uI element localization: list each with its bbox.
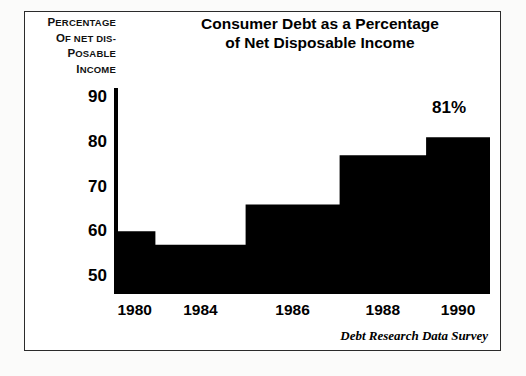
plot-area <box>114 88 490 294</box>
y-axis-caption-line-3: posable <box>40 46 116 62</box>
chart-title-line-1: Consumer Debt as a Percentage <box>150 14 490 33</box>
y-axis-caption-line-1: Percentage <box>40 15 116 31</box>
x-tick-label: 1984 <box>169 301 231 319</box>
source-attribution: Debt Research Data Survey <box>340 328 488 344</box>
x-tick-label: 1986 <box>262 301 324 319</box>
x-tick-label: 1988 <box>352 301 414 319</box>
y-axis-caption-line-4: income <box>40 62 116 78</box>
y-tick-label: 50 <box>61 266 107 286</box>
y-tick-label: 70 <box>61 177 107 197</box>
x-tick-label: 1980 <box>104 301 166 319</box>
y-axis-caption-line-2: of net dis- <box>40 31 116 47</box>
chart-title: Consumer Debt as a Percentage of Net Dis… <box>150 14 490 52</box>
y-tick-label: 80 <box>61 132 107 152</box>
y-tick-label: 90 <box>61 87 107 107</box>
data-label-81-percent: 81% <box>432 98 466 118</box>
chart-figure: Consumer Debt as a Percentage of Net Dis… <box>0 0 526 376</box>
y-tick-label: 60 <box>61 221 107 241</box>
x-tick-label: 1990 <box>427 301 489 319</box>
chart-title-line-2: of Net Disposable Income <box>150 33 490 52</box>
step-area-series <box>114 88 490 294</box>
debt-step-area <box>114 137 490 294</box>
y-axis-caption: Percentage of net dis- posable income <box>40 15 116 77</box>
